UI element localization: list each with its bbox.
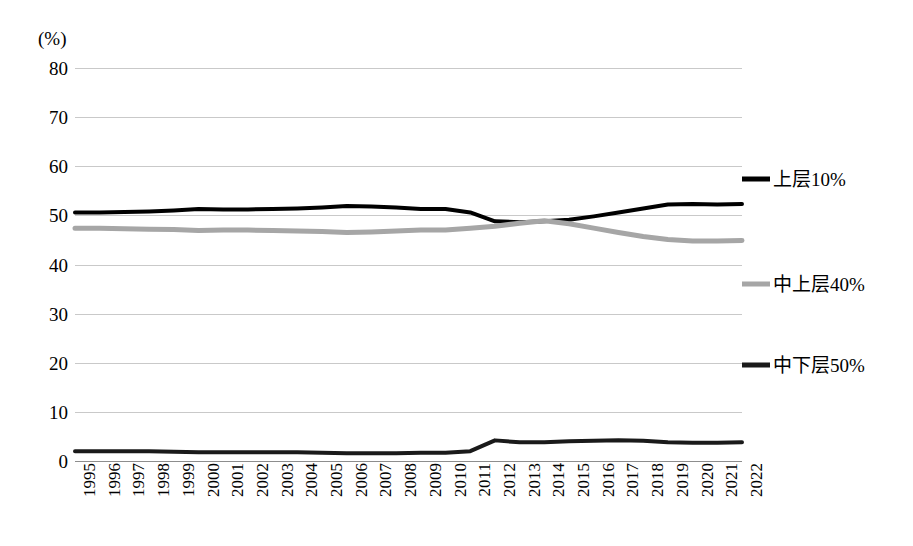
x-tick-label-2007: 2007 xyxy=(377,463,394,497)
x-tick-label-2021: 2021 xyxy=(723,463,740,497)
x-tick-label-1999: 1999 xyxy=(180,463,197,497)
y-tick-label-20: 20 xyxy=(34,353,68,372)
x-tick-label-2015: 2015 xyxy=(575,463,592,497)
legend-swatch-icon-3 xyxy=(742,363,770,368)
chart-legend: 上层10%中上层40%中下层50% xyxy=(742,68,913,461)
y-tick-label-70: 70 xyxy=(34,108,68,127)
x-tick-label-2017: 2017 xyxy=(624,463,641,497)
series-line-2 xyxy=(75,221,742,241)
legend-swatch-icon-2 xyxy=(742,282,770,287)
x-tick-label-2016: 2016 xyxy=(600,463,617,497)
legend-entry-3: 中下层50% xyxy=(742,356,865,375)
x-tick-label-2000: 2000 xyxy=(205,463,222,497)
y-tick-label-10: 10 xyxy=(34,402,68,421)
x-tick-label-2022: 2022 xyxy=(748,463,765,497)
x-tick-label-2014: 2014 xyxy=(550,463,567,497)
y-tick-label-80: 80 xyxy=(34,59,68,78)
plot-area xyxy=(75,68,742,461)
y-axis-tick-label-group: 80706050403020100 xyxy=(30,68,68,461)
y-tick-label-40: 40 xyxy=(34,255,68,274)
y-tick-label-0: 0 xyxy=(34,452,68,471)
y-tick-label-50: 50 xyxy=(34,206,68,225)
series-line-3 xyxy=(75,440,742,453)
x-tick-label-2020: 2020 xyxy=(699,463,716,497)
x-tick-label-2005: 2005 xyxy=(328,463,345,497)
legend-label-3: 中下层50% xyxy=(773,356,865,375)
legend-label-1: 上层10% xyxy=(773,169,846,188)
x-tick-label-2019: 2019 xyxy=(674,463,691,497)
x-tick-label-2008: 2008 xyxy=(402,463,419,497)
series-line-1 xyxy=(75,204,742,222)
x-tick-label-2006: 2006 xyxy=(353,463,370,497)
x-tick-label-2011: 2011 xyxy=(476,463,493,496)
x-tick-label-1995: 1995 xyxy=(81,463,98,497)
legend-label-2: 中上层40% xyxy=(773,275,865,294)
legend-swatch-icon-1 xyxy=(742,176,770,181)
x-tick-label-1997: 1997 xyxy=(130,463,147,497)
x-tick-label-2004: 2004 xyxy=(303,463,320,497)
x-tick-label-1998: 1998 xyxy=(155,463,172,497)
line-chart-figure: (%) 80706050403020100 199519961997199819… xyxy=(0,0,913,546)
y-axis-unit-label: (%) xyxy=(38,29,66,48)
x-tick-label-2002: 2002 xyxy=(254,463,271,497)
x-axis-tick-label-group: 1995199619971998199920002001200220032004… xyxy=(75,463,742,543)
legend-entry-2: 中上层40% xyxy=(742,275,865,294)
series-layer xyxy=(75,68,742,461)
x-tick-label-2003: 2003 xyxy=(279,463,296,497)
x-tick-label-2013: 2013 xyxy=(526,463,543,497)
x-tick-label-2018: 2018 xyxy=(649,463,666,497)
gridline-0 xyxy=(75,461,742,462)
y-tick-label-60: 60 xyxy=(34,157,68,176)
x-tick-label-2010: 2010 xyxy=(452,463,469,497)
x-tick-label-2009: 2009 xyxy=(427,463,444,497)
x-tick-label-2001: 2001 xyxy=(229,463,246,497)
x-tick-label-2012: 2012 xyxy=(501,463,518,497)
y-tick-label-30: 30 xyxy=(34,304,68,323)
legend-entry-1: 上层10% xyxy=(742,169,846,188)
x-tick-label-1996: 1996 xyxy=(106,463,123,497)
